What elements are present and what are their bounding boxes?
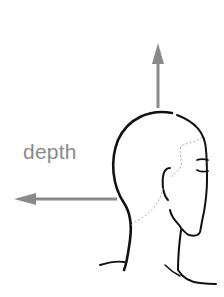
depth-arrow-icon [14,193,117,205]
up-arrow-icon [152,43,164,108]
head-depth-diagram: depth [0,0,224,297]
head-outline [100,112,216,284]
depth-label: depth [23,140,77,164]
hairline-dotted [130,137,202,226]
